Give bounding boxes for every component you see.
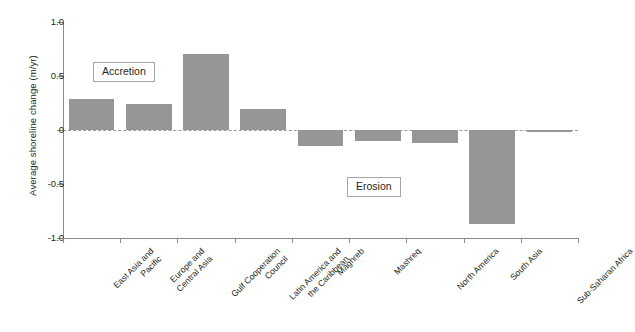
- x-tick-mark: [292, 238, 293, 243]
- bar: [469, 130, 515, 224]
- x-tick-label-line: North America: [455, 246, 501, 292]
- x-tick-mark: [120, 238, 121, 243]
- x-tick-mark: [235, 238, 236, 243]
- x-tick-mark: [406, 238, 407, 243]
- x-tick-label: Gulf CooperationCouncil: [229, 246, 290, 307]
- x-tick-label: North America: [455, 246, 501, 292]
- x-tick-label: Mashreq: [392, 246, 423, 277]
- annotation-accretion: Accretion: [93, 62, 155, 82]
- x-tick-label-line: Mashreq: [392, 246, 423, 277]
- bar: [240, 109, 286, 130]
- bar: [298, 130, 344, 146]
- y-tick: 0: [0, 130, 64, 131]
- x-tick-mark: [578, 238, 579, 243]
- y-tick-label: 0: [18, 124, 64, 135]
- bar: [527, 130, 573, 132]
- bar: [183, 54, 229, 130]
- bar: [355, 130, 401, 141]
- y-tick: -1.0: [0, 238, 64, 239]
- bar: [126, 104, 172, 130]
- y-tick-label: 1.0: [18, 16, 64, 27]
- y-tick-label: -0.5: [18, 178, 64, 189]
- x-tick-mark: [521, 238, 522, 243]
- x-tick-label: South Asia: [508, 246, 544, 282]
- x-tick-label: Europe andCentral Asia: [166, 246, 214, 294]
- x-tick-label: East Asia andPacific: [111, 246, 163, 298]
- x-tick-mark: [63, 238, 64, 243]
- y-tick: 1.0: [0, 22, 64, 23]
- y-tick-label: 0.5: [18, 70, 64, 81]
- y-tick: -0.5: [0, 184, 64, 185]
- y-tick-label: -1.0: [18, 232, 64, 243]
- bar: [69, 99, 115, 130]
- x-tick-mark: [349, 238, 350, 243]
- x-tick-mark: [177, 238, 178, 243]
- bar: [412, 130, 458, 143]
- y-tick: 0.5: [0, 76, 64, 77]
- x-tick-label-line: Sub-Saharan Africa: [575, 246, 635, 306]
- x-axis-line: [63, 238, 578, 239]
- x-tick-label-line: South Asia: [508, 246, 544, 282]
- annotation-erosion: Erosion: [347, 177, 401, 197]
- x-tick-mark: [464, 238, 465, 243]
- x-tick-label: Sub-Saharan Africa: [575, 246, 635, 306]
- x-tick-label: Latin America andthe Caribbean: [287, 246, 350, 309]
